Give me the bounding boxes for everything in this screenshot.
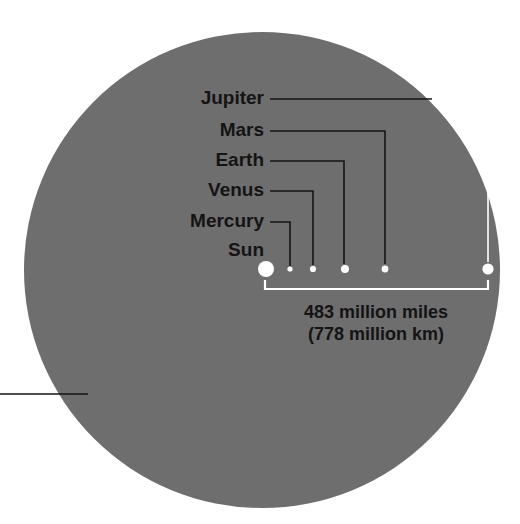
label-mars: Mars <box>220 119 264 140</box>
label-sun: Sun <box>228 239 264 260</box>
label-jupiter: Jupiter <box>201 87 265 108</box>
body-venus <box>310 266 316 272</box>
body-earth <box>341 265 349 273</box>
label-venus: Venus <box>208 179 264 200</box>
label-mercury: Mercury <box>190 210 264 231</box>
planet-scale-diagram: JupiterMarsEarthVenusMercurySun 483 mill… <box>0 0 520 524</box>
body-sun <box>258 261 274 277</box>
label-earth: Earth <box>215 149 264 170</box>
caption-kilometers: (778 million km) <box>308 324 444 344</box>
body-jupiter <box>482 263 493 274</box>
body-mercury <box>287 266 292 271</box>
figure-canvas: JupiterMarsEarthVenusMercurySun 483 mill… <box>0 0 520 524</box>
body-mars <box>382 266 389 273</box>
caption-miles: 483 million miles <box>304 302 448 322</box>
